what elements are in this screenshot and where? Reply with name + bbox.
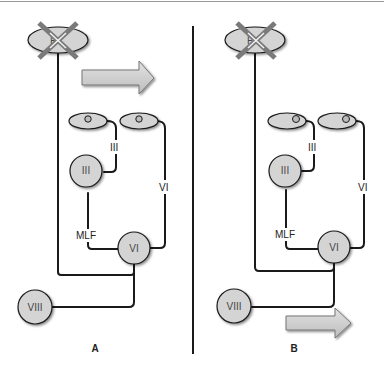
- mlf-label: MLF: [275, 229, 295, 240]
- nerve-iii-label: III: [110, 142, 118, 153]
- nucleus-iii-a: III: [70, 155, 102, 187]
- oculomotor-pathway-diagram: P III VI III: [0, 0, 384, 365]
- eye-right-a: [120, 113, 158, 129]
- vestibular-direction-arrow-icon: [286, 308, 351, 338]
- nucleus-vi-a: VI: [118, 232, 150, 264]
- nucleus-viii-a: VIII: [18, 290, 52, 324]
- svg-text:VI: VI: [329, 242, 338, 253]
- pupil-icon: [293, 116, 300, 123]
- pupil-icon: [85, 116, 91, 122]
- pupil-icon: [136, 116, 142, 122]
- vi-to-viii-line: [52, 262, 134, 307]
- nerve-iii-label: III: [308, 142, 316, 153]
- panel-label-a: A: [91, 343, 98, 354]
- pupil-icon: [343, 116, 350, 123]
- svg-text:VIII: VIII: [226, 301, 241, 312]
- nerve-vi-label: VI: [358, 182, 367, 193]
- nucleus-viii-b: VIII: [217, 289, 251, 323]
- eye-left-b: [268, 113, 306, 129]
- vi-to-viii-line: [252, 262, 334, 307]
- svg-text:VI: VI: [129, 243, 138, 254]
- eye-left-a: [69, 113, 107, 129]
- crossed-nucleus-b: P: [225, 23, 285, 58]
- mlf-label: MLF: [76, 230, 96, 241]
- svg-text:VIII: VIII: [27, 302, 42, 313]
- nucleus-vi-b: VI: [318, 231, 350, 263]
- panel-b: P III VI III MLF: [217, 23, 371, 354]
- svg-text:III: III: [281, 165, 289, 176]
- crossed-nucleus-a: P: [28, 23, 88, 58]
- eye-right-b: [318, 113, 356, 129]
- panel-a: P III VI III: [18, 23, 172, 354]
- panel-label-b: B: [290, 343, 297, 354]
- nerve-vi-label: VI: [159, 182, 168, 193]
- gaze-direction-arrow-icon: [82, 61, 154, 94]
- svg-text:III: III: [82, 165, 90, 176]
- nucleus-iii-b: III: [269, 155, 301, 187]
